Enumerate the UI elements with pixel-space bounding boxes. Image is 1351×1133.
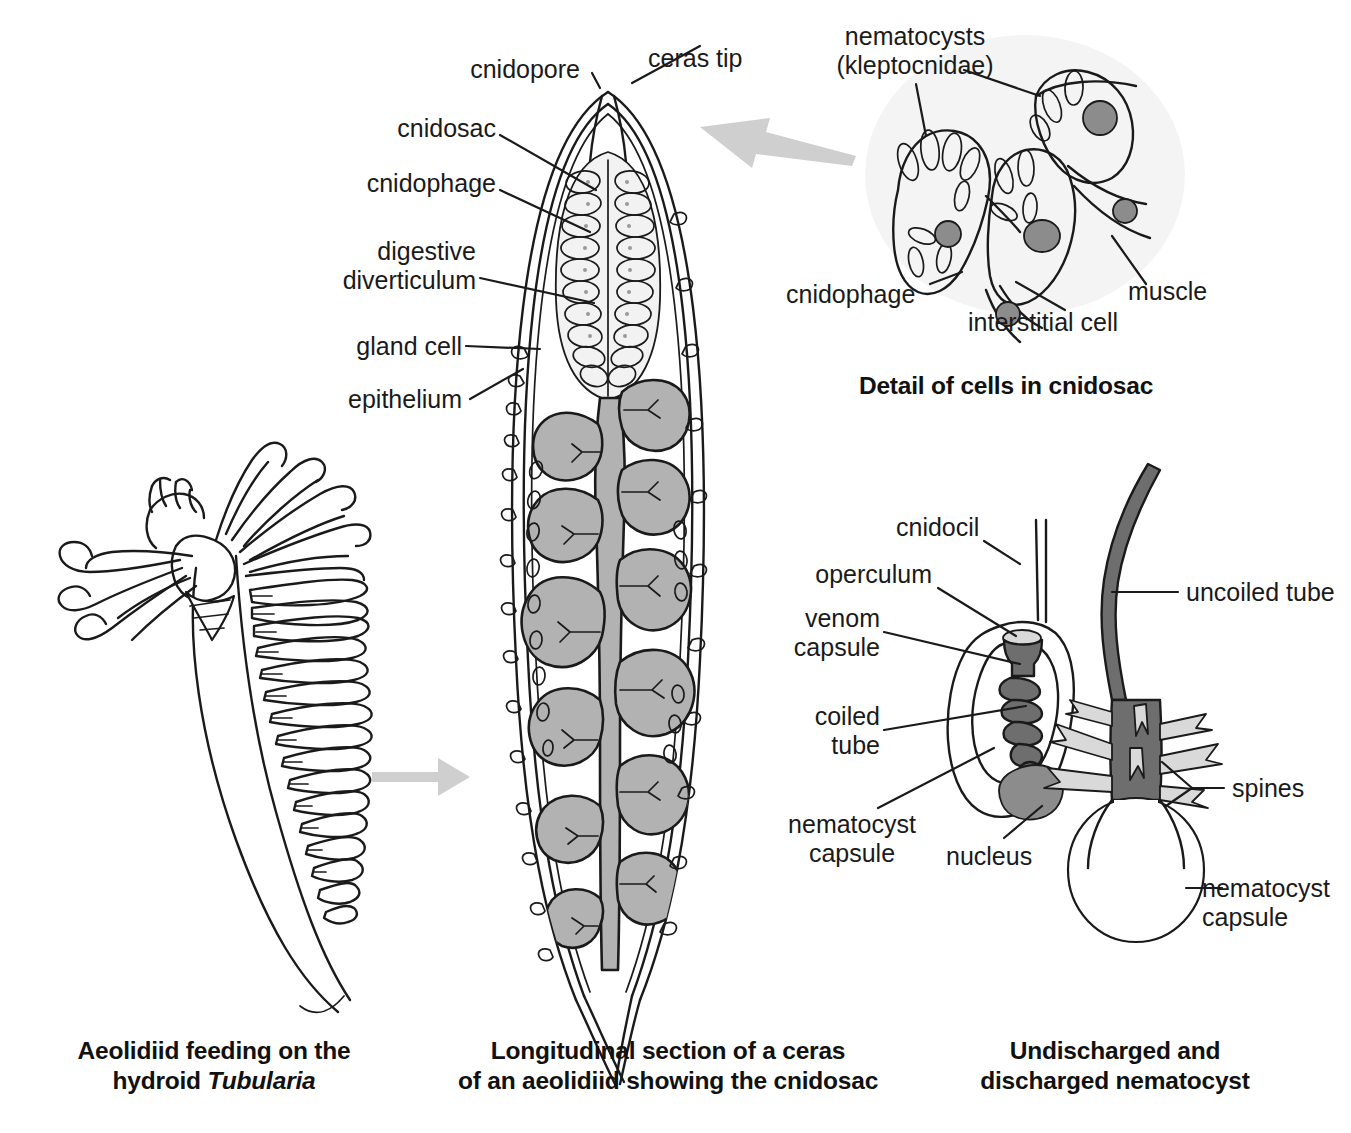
title-detail-of-cells-in-cnidosac: Detail of cells in cnidosac xyxy=(836,371,1176,401)
caption-bottom-right-panel: Undischarged and discharged nematocyst xyxy=(930,1036,1300,1096)
label-nematocysts-kleptocnidae: nematocysts (kleptocnidae) xyxy=(800,22,1030,80)
label-cnidocil: cnidocil xyxy=(896,513,1066,542)
caption-left-line2-pre: hydroid xyxy=(112,1067,207,1094)
label-nucleus: nucleus xyxy=(946,842,1106,871)
label-epithelium: epithelium xyxy=(240,385,462,414)
arrow-left-to-ceras xyxy=(372,758,470,796)
caption-center-panel: Longitudinal section of a ceras of an ae… xyxy=(408,1036,928,1096)
label-cnidophage-detail: cnidophage xyxy=(786,280,976,309)
label-coiled-tube: coiled tube xyxy=(758,702,880,760)
cnidosac xyxy=(556,152,660,400)
label-nematocyst-capsule-left: nematocyst capsule xyxy=(752,810,952,868)
label-interstitial-cell: interstitial cell xyxy=(968,308,1188,337)
label-nematocyst-capsule-right: nematocyst capsule xyxy=(1202,874,1351,932)
caption-right-line2: discharged nematocyst xyxy=(930,1066,1300,1096)
label-venom-capsule: venom capsule xyxy=(758,604,880,662)
label-spines: spines xyxy=(1232,774,1351,803)
label-operculum: operculum xyxy=(760,560,932,589)
aeolidiid-feeding-illustration xyxy=(59,443,372,1013)
label-cnidosac: cnidosac xyxy=(280,114,496,143)
caption-center-line2: of an aeolidiid showing the cnidosac xyxy=(408,1066,928,1096)
caption-left-line2: hydroid Tubularia xyxy=(44,1066,384,1096)
figure-artwork: .st{fill:none;stroke:#1a1a1a;stroke-widt… xyxy=(0,0,1351,1133)
label-digestive-diverticulum: digestive diverticulum xyxy=(230,237,476,295)
caption-left-panel: Aeolidiid feeding on the hydroid Tubular… xyxy=(44,1036,384,1096)
label-muscle: muscle xyxy=(1128,277,1268,306)
label-uncoiled-tube: uncoiled tube xyxy=(1186,578,1351,607)
caption-left-line1: Aeolidiid feeding on the xyxy=(44,1036,384,1066)
label-cnidophage-ceras: cnidophage xyxy=(260,169,496,198)
arrow-cnidosac-to-ceras xyxy=(700,118,856,168)
label-gland-cell: gland cell xyxy=(240,332,462,361)
digestive-diverticulum xyxy=(522,380,695,970)
figure-canvas: .st{fill:none;stroke:#1a1a1a;stroke-widt… xyxy=(0,0,1351,1133)
caption-right-line1: Undischarged and xyxy=(930,1036,1300,1066)
caption-left-line2-italic: Tubularia xyxy=(208,1067,316,1094)
label-cnidopore: cnidopore xyxy=(340,55,580,84)
ceras-longitudinal-section xyxy=(501,92,707,1086)
caption-center-line1: Longitudinal section of a ceras xyxy=(408,1036,928,1066)
